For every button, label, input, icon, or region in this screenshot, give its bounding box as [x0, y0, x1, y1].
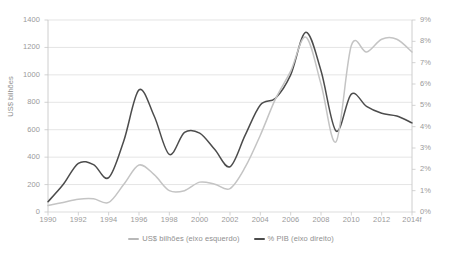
x-axis-tick-label: 2014f	[392, 215, 432, 224]
y-axis-right-tick-label: 2%	[420, 164, 450, 173]
y-axis-left-tick-label: 400	[6, 152, 40, 161]
chart-container: US$ bilhões US$ bilhões (eixo esquerdo)%…	[0, 0, 462, 254]
legend-line-swatch-icon	[128, 238, 139, 240]
series-line-1	[48, 32, 412, 201]
y-axis-right-tick-label: 6%	[420, 79, 450, 88]
y-axis-left-tick-label: 800	[6, 97, 40, 106]
y-axis-left-tick-label: 1400	[6, 15, 40, 24]
plot-area	[48, 20, 412, 212]
axis-frame	[45, 20, 416, 216]
y-axis-right-tick-label: 8%	[420, 36, 450, 45]
y-axis-left-tick-label: 1000	[6, 70, 40, 79]
chart-plot-svg	[48, 20, 412, 212]
y-axis-right-tick-label: 9%	[420, 15, 450, 24]
legend-line-swatch-icon	[254, 238, 265, 240]
gridlines	[48, 20, 412, 212]
y-axis-right-tick-label: 3%	[420, 143, 450, 152]
y-axis-left-tick-label: 200	[6, 180, 40, 189]
legend-label: US$ bilhões (eixo esquerdo)	[142, 234, 239, 243]
legend-label: % PIB (eixo direito)	[268, 234, 334, 243]
y-axis-right-tick-label: 4%	[420, 122, 450, 131]
y-axis-left-tick-label: 600	[6, 125, 40, 134]
legend-item[interactable]: % PIB (eixo direito)	[254, 234, 334, 243]
y-axis-right-tick-label: 7%	[420, 58, 450, 67]
chart-legend: US$ bilhões (eixo esquerdo)% PIB (eixo d…	[0, 234, 462, 243]
series-line-2	[48, 37, 412, 206]
y-axis-right-tick-label: 5%	[420, 100, 450, 109]
series-lines	[48, 32, 412, 205]
y-axis-right-tick-label: 1%	[420, 186, 450, 195]
y-axis-left-tick-label: 1200	[6, 42, 40, 51]
legend-item[interactable]: US$ bilhões (eixo esquerdo)	[128, 234, 239, 243]
